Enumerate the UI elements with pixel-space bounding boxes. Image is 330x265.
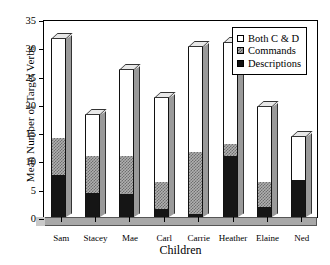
bar-segment-descriptions — [291, 180, 306, 217]
y-axis-tick-label: 20 — [26, 101, 37, 111]
y-axis-tick-label: 5 — [31, 186, 36, 196]
bar-segment-descriptions — [223, 156, 238, 217]
bar-side-face — [306, 133, 312, 217]
y-axis-tick — [39, 162, 44, 163]
bar-segment-commands — [119, 156, 134, 194]
bar-segment-descriptions — [188, 214, 203, 217]
legend-item-commands: Commands — [237, 45, 301, 56]
bar-segment-both-c-d — [51, 39, 66, 138]
bar-carl — [154, 98, 169, 217]
white-square-icon — [237, 35, 244, 42]
bar-side-face — [66, 35, 72, 217]
x-axis-tick-label: Carrie — [187, 233, 210, 243]
y-axis-tick — [39, 78, 44, 79]
bar-side-face — [272, 104, 278, 217]
bar-side-face — [134, 66, 140, 217]
legend-label: Descriptions — [248, 58, 301, 69]
bar-segment-descriptions — [85, 193, 100, 217]
bar-side-face — [169, 94, 175, 217]
bar-segment-commands — [257, 182, 272, 207]
y-axis-tick — [39, 21, 44, 22]
bar-segment-commands — [85, 156, 100, 193]
hatched-square-icon — [237, 47, 244, 54]
x-axis-tick — [301, 217, 302, 222]
legend-item-descriptions: Descriptions — [237, 58, 301, 69]
y-axis-tick-label: 30 — [26, 44, 37, 54]
x-axis-title: Children — [43, 243, 318, 258]
bar-segment-descriptions — [51, 175, 66, 217]
bar-segment-commands — [223, 144, 238, 156]
x-axis-tick — [164, 217, 165, 222]
bar-sam — [51, 39, 66, 217]
bar-segment-both-c-d — [154, 98, 169, 182]
x-axis-tick — [233, 217, 234, 222]
bar-carrie — [188, 47, 203, 217]
bar-segment-both-c-d — [85, 115, 100, 156]
x-axis-tick — [61, 217, 62, 222]
y-axis-tick — [39, 106, 44, 107]
bar-segment-both-c-d — [291, 137, 306, 181]
bar-segment-both-c-d — [119, 70, 134, 156]
legend-label: Both C & D — [248, 33, 299, 44]
x-axis-tick-label: Mae — [122, 233, 138, 243]
y-axis-tick — [39, 49, 44, 50]
y-axis-tick-label: 35 — [26, 16, 37, 26]
legend-item-both: Both C & D — [237, 33, 301, 44]
bar-elaine — [257, 107, 272, 217]
bar-stacey — [85, 115, 100, 217]
y-axis-tick-label: 0 — [31, 214, 36, 224]
x-axis-tick — [198, 217, 199, 222]
bar-segment-descriptions — [154, 209, 169, 217]
bar-ned — [291, 137, 306, 217]
x-axis-tick-label: Carl — [157, 233, 173, 243]
chart-floor — [44, 217, 317, 226]
bar-segment-both-c-d — [257, 107, 272, 182]
bar-segment-descriptions — [119, 194, 134, 217]
x-axis-tick-label: Heather — [219, 233, 247, 243]
y-axis-tick — [39, 134, 44, 135]
bar-side-face — [203, 44, 209, 217]
bar-segment-both-c-d — [188, 47, 203, 152]
bar-side-face — [100, 111, 106, 217]
bar-segment-commands — [188, 152, 203, 214]
x-axis-tick — [129, 217, 130, 222]
y-axis-tick — [39, 191, 44, 192]
black-square-icon — [237, 60, 244, 67]
bar-chart: Mean Number of Target Verbs 051015202530… — [0, 0, 330, 265]
x-axis-tick-label: Stacey — [84, 233, 108, 243]
y-axis-tick-label: 10 — [26, 157, 37, 167]
bar-segment-commands — [51, 138, 66, 175]
x-axis-tick — [95, 217, 96, 222]
y-axis-tick-label: 25 — [26, 73, 37, 83]
y-axis-tick-label: 15 — [26, 129, 37, 139]
x-axis-tick-label: Ned — [294, 233, 309, 243]
bar-segment-commands — [154, 182, 169, 209]
x-axis-tick-label: Sam — [53, 233, 69, 243]
bar-segment-descriptions — [257, 207, 272, 217]
legend: Both C & D Commands Descriptions — [232, 27, 307, 75]
y-axis-tick — [39, 219, 44, 220]
x-axis-tick — [267, 217, 268, 222]
x-axis-tick-label: Elaine — [256, 233, 279, 243]
bar-mae — [119, 70, 134, 217]
legend-label: Commands — [248, 45, 296, 56]
